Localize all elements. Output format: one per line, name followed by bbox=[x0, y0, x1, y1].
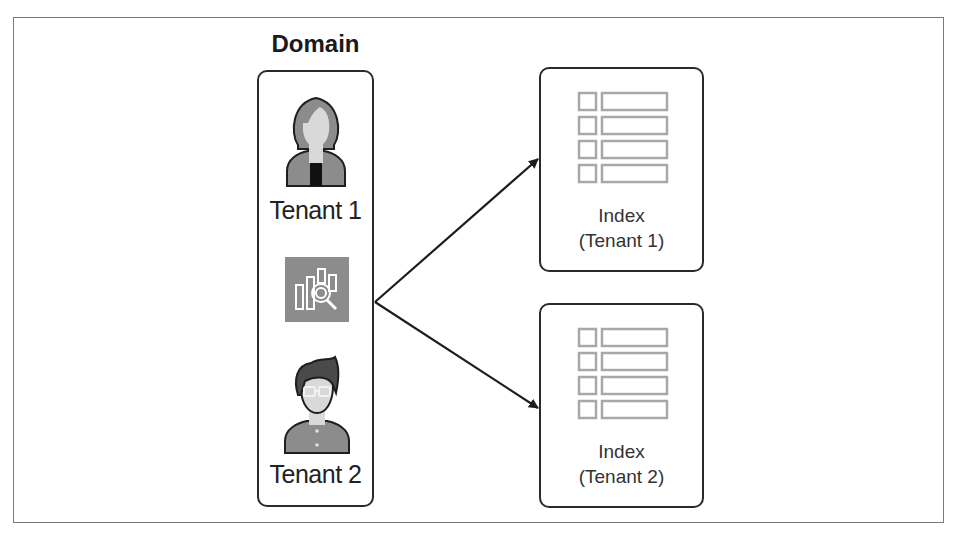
table-index-icon bbox=[577, 327, 669, 423]
index-tenant-2-title: Index bbox=[541, 440, 702, 464]
table-index-icon bbox=[577, 91, 669, 187]
arrow-to-index-tenant-1 bbox=[375, 159, 538, 302]
index-tenant-1-title: Index bbox=[541, 204, 702, 228]
connection-arrows bbox=[0, 0, 958, 535]
index-tenant-2-box: Index (Tenant 2) bbox=[539, 303, 704, 508]
arrow-to-index-tenant-2 bbox=[375, 302, 538, 408]
index-tenant-2-subtitle: (Tenant 2) bbox=[541, 465, 702, 489]
index-tenant-1-box: Index (Tenant 1) bbox=[539, 67, 704, 272]
index-tenant-1-subtitle: (Tenant 1) bbox=[541, 229, 702, 253]
